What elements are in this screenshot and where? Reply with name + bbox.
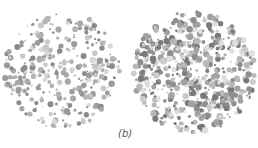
dot-plate-right [0, 0, 258, 148]
figure-caption: (b) [118, 128, 132, 139]
